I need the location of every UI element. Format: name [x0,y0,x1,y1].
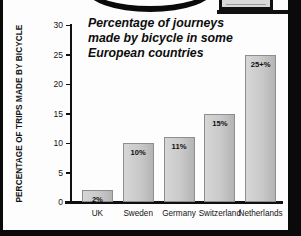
bar: 10% [123,143,154,202]
scan-border-right [288,0,301,236]
bar-group: 11%Germany [164,137,195,202]
bar-value-label: 10% [124,148,153,157]
bar-group: 15%Switzerland [204,114,235,203]
scan-border-left [0,0,3,236]
bar-group: 2%UK [82,190,113,202]
x-axis-category-label: Netherlands [233,209,288,218]
bar: 11% [164,137,195,202]
bar: 25+% [245,55,276,203]
bar-group: 25+%Netherlands [245,55,276,203]
bar: 2% [82,190,113,202]
bar-series: 2%UK10%Sweden11%Germany15%Switzerland25+… [3,14,288,230]
scan-border-bottom [0,230,301,236]
scanned-page: PERCENTAGE OF TRIPS MADE BY BICYCLE 0510… [0,0,301,236]
clipped-panel-fragment [219,0,273,10]
bar-value-label: 15% [205,119,234,128]
panel-divider-line [226,4,266,5]
bar-value-label: 11% [165,142,194,151]
oval-graphic-arc-icon [86,0,214,12]
bar: 15% [204,114,235,203]
bar-chart: PERCENTAGE OF TRIPS MADE BY BICYCLE 0510… [3,14,288,230]
bar-group: 10%Sweden [123,143,154,202]
bar-value-label: 25+% [246,60,275,69]
bar-value-label: 2% [83,195,112,204]
paper-sheet: PERCENTAGE OF TRIPS MADE BY BICYCLE 0510… [3,0,288,230]
